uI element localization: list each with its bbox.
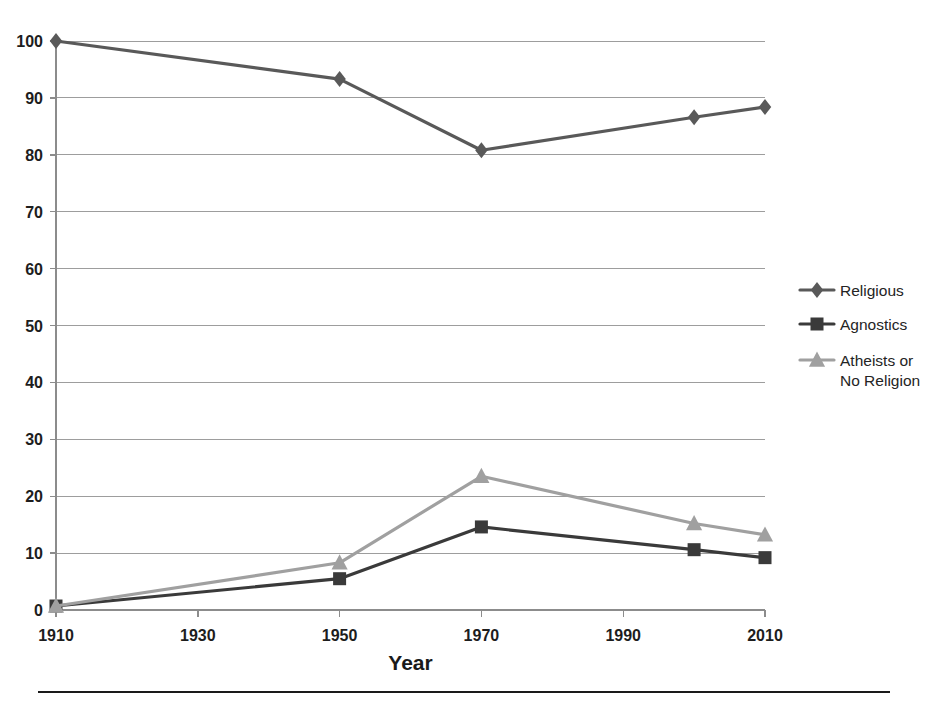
data-point-marker: [475, 520, 488, 533]
y-tick-label-70: 70: [25, 204, 43, 221]
x-tick-label-1970: 1970: [464, 627, 500, 644]
x-tick-label-1950: 1950: [322, 627, 358, 644]
legend-label-line2: No Religion: [840, 372, 920, 389]
x-axis-title: Year: [388, 651, 432, 674]
y-tick-label-80: 80: [25, 147, 43, 164]
y-tick-label-50: 50: [25, 318, 43, 335]
y-tick-label-30: 30: [25, 431, 43, 448]
x-tick-label-1990: 1990: [605, 627, 641, 644]
y-tick-label-90: 90: [25, 90, 43, 107]
y-tick-label-40: 40: [25, 374, 43, 391]
y-tick-label-0: 0: [34, 602, 43, 619]
y-tick-label-60: 60: [25, 261, 43, 278]
x-tick-label-2010: 2010: [747, 627, 783, 644]
y-tick-label-10: 10: [25, 545, 43, 562]
y-tick-label-20: 20: [25, 488, 43, 505]
x-tick-label-1910: 1910: [38, 627, 74, 644]
legend-label: Agnostics: [840, 316, 907, 333]
legend-label: Religious: [840, 282, 904, 299]
chart-figure: 0102030405060708090100 19101930195019701…: [0, 0, 932, 717]
legend-marker-square-icon: [811, 318, 824, 331]
data-point-marker: [759, 551, 772, 564]
y-tick-label-100: 100: [16, 33, 43, 50]
data-point-marker: [688, 543, 701, 556]
data-point-marker: [333, 572, 346, 585]
line-chart-canvas: 0102030405060708090100 19101930195019701…: [0, 0, 932, 717]
legend-item-agnostics[interactable]: Agnostics: [800, 316, 907, 333]
legend-label: Atheists or: [840, 352, 913, 369]
x-tick-label-1930: 1930: [180, 627, 216, 644]
